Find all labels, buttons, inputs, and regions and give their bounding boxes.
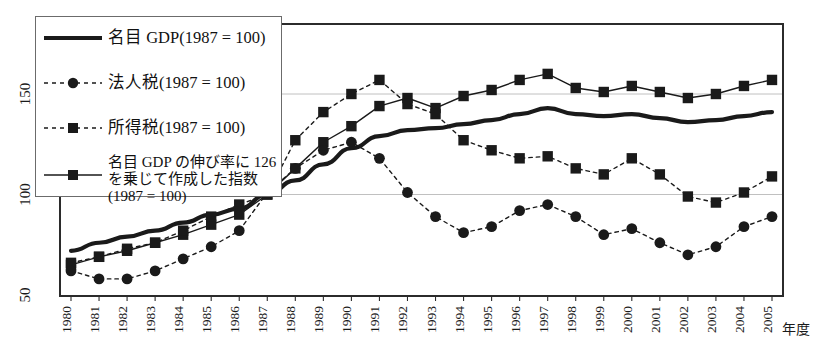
x-tick-label: 1986 — [227, 306, 242, 333]
x-tick-label: 1997 — [536, 306, 551, 333]
x-tick-label: 1988 — [283, 306, 298, 333]
legend-item-gdp-index-126: 名目 GDP の伸び率に 126 を乗じて作成した指数 (1987 = 100) — [36, 154, 281, 205]
x-tick-label: 1983 — [143, 306, 158, 333]
x-tick-label: 1982 — [115, 306, 130, 333]
x-tick-label: 1984 — [171, 306, 186, 333]
x-tick-label: 1990 — [339, 306, 354, 333]
x-tick-label: 1999 — [592, 306, 607, 333]
legend-swatch-solid-thick — [42, 29, 104, 47]
y-tick-label: 50 — [17, 288, 33, 303]
x-tick-label: 1996 — [508, 306, 523, 333]
legend-label-corporate-tax: 法人税(1987 = 100) — [108, 74, 245, 92]
x-tick-label: 1989 — [311, 306, 326, 333]
legend-swatch-solid-square — [42, 166, 104, 184]
chart-title-strip — [0, 0, 834, 12]
legend-swatch-dashed-circle — [42, 74, 104, 92]
y-tick-label: 150 — [17, 83, 33, 106]
x-tick-label: 1992 — [395, 306, 410, 333]
y-tick-label: 100 — [17, 183, 33, 206]
x-axis-name: 年度 — [782, 322, 810, 337]
x-tick-label: 2004 — [732, 306, 747, 333]
x-tick-label: 1981 — [87, 306, 102, 333]
x-tick-label: 1987 — [255, 306, 270, 333]
x-tick-label: 2000 — [620, 306, 635, 333]
chart-container: 1980198119821983198419851986198719881989… — [0, 0, 834, 350]
x-tick-label: 2005 — [760, 306, 775, 333]
x-tick-label: 1998 — [564, 306, 579, 333]
x-tick-label: 2003 — [704, 306, 719, 333]
legend-label-nominal-gdp: 名目 GDP(1987 = 100) — [108, 29, 265, 47]
legend-item-nominal-gdp: 名目 GDP(1987 = 100) — [36, 29, 281, 47]
legend-swatch-dashed-square — [42, 119, 104, 137]
x-tick-label: 2001 — [648, 306, 663, 333]
legend-label-income-tax: 所得税(1987 = 100) — [108, 119, 245, 137]
x-tick-label: 1994 — [452, 306, 467, 333]
x-tick-label: 1993 — [424, 306, 439, 333]
x-tick-label: 1980 — [59, 306, 74, 333]
x-tick-label: 1991 — [367, 306, 382, 333]
x-tick-label: 1995 — [480, 306, 495, 333]
x-tick-label: 2002 — [676, 306, 691, 333]
legend-item-income-tax: 所得税(1987 = 100) — [36, 119, 281, 137]
legend-label-gdp-index-126: 名目 GDP の伸び率に 126 を乗じて作成した指数 (1987 = 100) — [108, 154, 281, 205]
chart-legend: 名目 GDP(1987 = 100) 法人税(1987 = 100) 所得税(1… — [35, 16, 282, 197]
x-tick-label: 1985 — [199, 306, 214, 333]
legend-item-corporate-tax: 法人税(1987 = 100) — [36, 74, 281, 92]
